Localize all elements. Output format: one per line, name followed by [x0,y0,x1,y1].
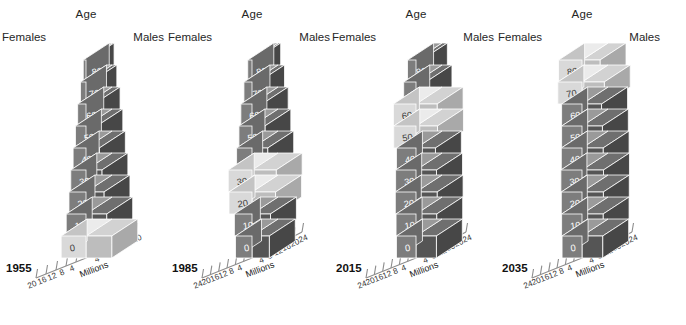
population-pyramid-figure: AgeFemalesMales19552016128448121620Milli… [0,0,686,325]
axis-tick-label: 24 [297,233,309,245]
band-front-face-male [86,236,112,258]
axis-tick-label: 8 [228,266,236,276]
axis-tick-label: 4 [68,263,76,273]
pyramid-panel-1985: AgeFemalesMales198524201612844812162024M… [166,0,338,325]
axis-tick-label: 12 [547,269,559,281]
axis-tick-label: 12 [381,269,393,281]
axis-title: Millions [78,259,110,279]
axis-tick-label: 4 [400,263,408,273]
axis-tick-label: 8 [58,267,66,277]
axis-tick-label: 8 [392,266,400,276]
axis-tick-label: 24 [461,233,473,245]
pyramid-panel-2035: AgeFemalesMales203524201612844812162024M… [496,0,668,325]
axis-tick-label: 12 [46,271,58,283]
axis-tick-label: 4 [566,263,574,273]
axis-tick-label: 8 [558,266,566,276]
pyramid-panel-1955: AgeFemalesMales19552016128448121620Milli… [0,0,172,325]
axis-tick-label: 4 [236,263,244,273]
axis-tick-label: 12 [217,269,229,281]
pyramid-panel-2015: AgeFemalesMales201524201612844812162024M… [330,0,502,325]
